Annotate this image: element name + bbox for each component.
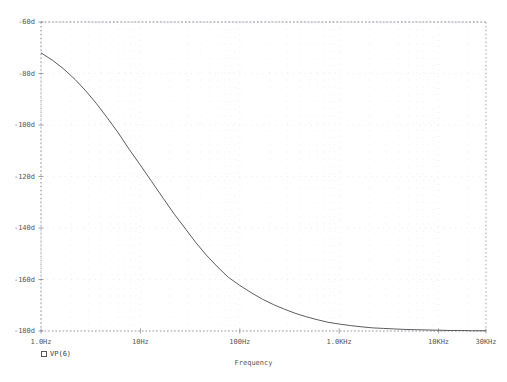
- y-axis-tick-label: -180d: [0, 327, 35, 335]
- y-axis-tick-label: -60d: [0, 18, 35, 26]
- axis-ticks: [39, 22, 487, 334]
- y-axis-tick-label: -140d: [0, 224, 35, 232]
- legend[interactable]: VP(6): [41, 350, 71, 358]
- x-axis-tick-label: 10KHz: [417, 338, 461, 346]
- y-axis-tick-label: -120d: [0, 173, 35, 181]
- phase-curve: [41, 53, 486, 331]
- horizontal-gridlines: [41, 22, 486, 331]
- y-axis-tick-label: -160d: [0, 276, 35, 284]
- x-axis-tick-label: 30KHz: [464, 338, 507, 346]
- legend-label: VP(6): [50, 350, 71, 358]
- minor-gridlines: [71, 22, 486, 331]
- x-axis-tick-label: 10Hz: [118, 338, 162, 346]
- y-axis-tick-label: -100d: [0, 121, 35, 129]
- x-axis-tick-label: 100Hz: [218, 338, 262, 346]
- x-axis-tick-label: 1.0KHz: [317, 338, 361, 346]
- phase-plot-canvas: [0, 0, 507, 382]
- x-axis-title: Frequency: [0, 359, 507, 367]
- y-axis-tick-label: -80d: [0, 70, 35, 78]
- square-marker-icon: [41, 351, 47, 357]
- x-axis-tick-label: 1.0Hz: [19, 338, 63, 346]
